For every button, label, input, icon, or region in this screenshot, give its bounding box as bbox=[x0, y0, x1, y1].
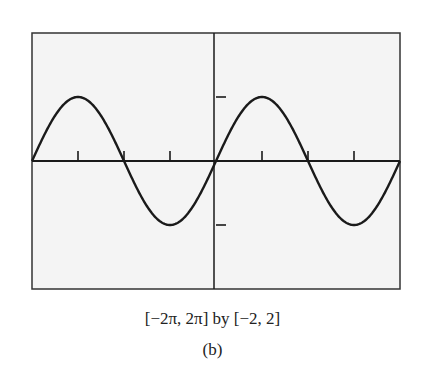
panel-label: (b) bbox=[0, 340, 425, 360]
graph-window bbox=[0, 0, 425, 300]
window-caption: [−2π, 2π] by [−2, 2] bbox=[0, 309, 425, 329]
